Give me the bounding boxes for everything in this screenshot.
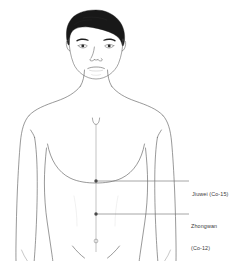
point-marker-zhongwan[interactable] [94, 212, 97, 215]
label-jiuwei: Jiuwei (Co-15) [192, 177, 228, 213]
label-zhongwan: Zhongwan (Co-12) [191, 209, 217, 261]
label-zhongwan-line2: (Co-12) [191, 245, 217, 252]
label-zhongwan-line1: Zhongwan [191, 223, 217, 230]
torso-fill [14, 84, 179, 261]
point-marker-jiuwei[interactable] [94, 179, 97, 182]
label-jiuwei-line1: Jiuwei (Co-15) [192, 191, 228, 198]
eye-right-pupil [108, 44, 111, 47]
body-fill-group [14, 13, 179, 261]
acupuncture-point-diagram: Jiuwei (Co-15) Zhongwan (Co-12) [0, 0, 242, 261]
eye-left-pupil [81, 44, 84, 47]
